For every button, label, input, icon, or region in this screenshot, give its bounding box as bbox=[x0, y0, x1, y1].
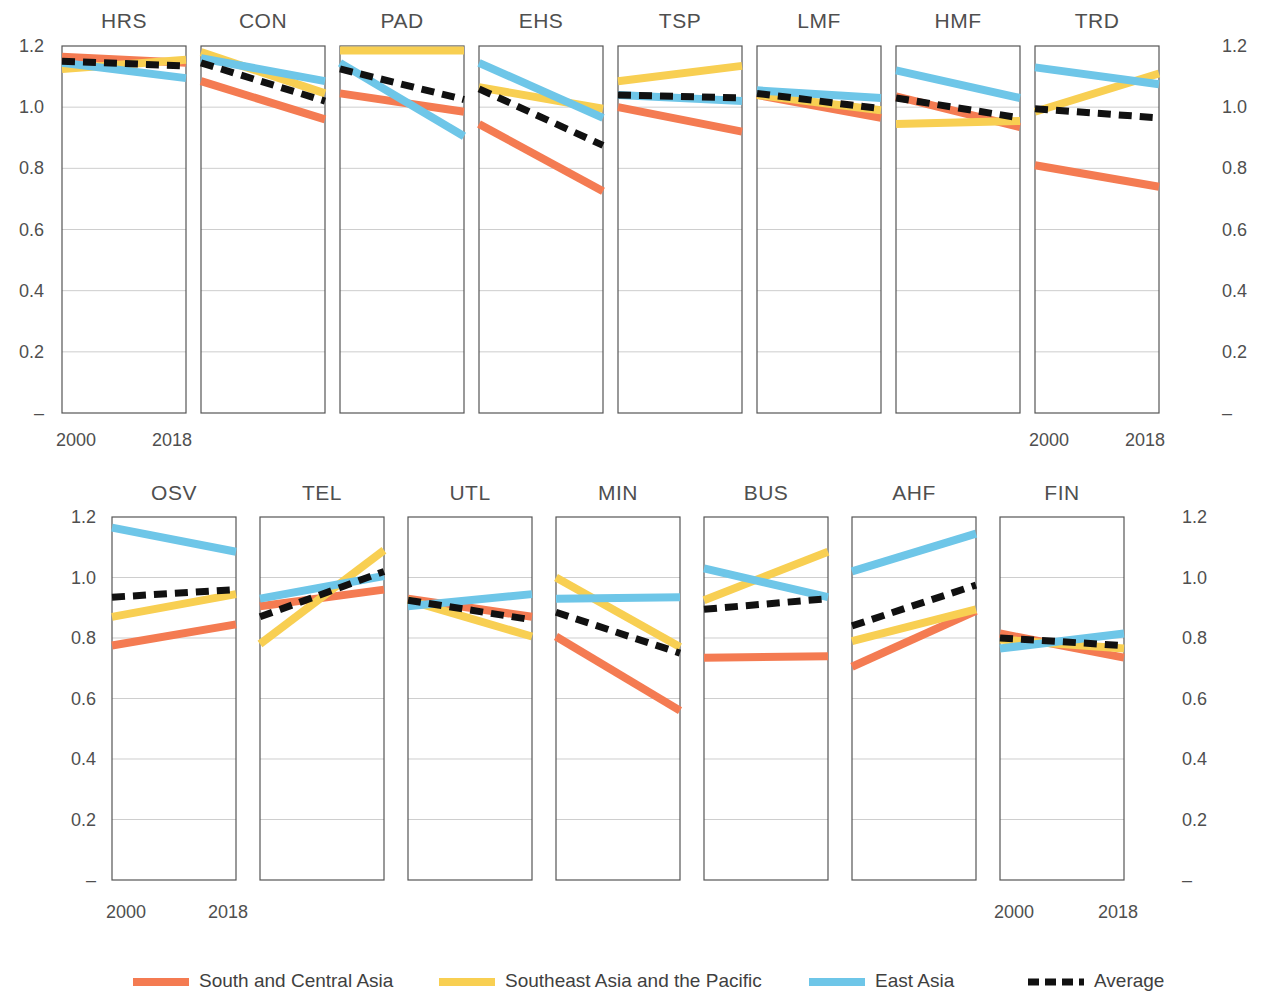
panel-min: MIN bbox=[556, 481, 680, 880]
x-axis-year-end-left: 2018 bbox=[152, 430, 192, 450]
y-axis-tick-label: 0.8 bbox=[71, 628, 96, 648]
panel-title: TEL bbox=[302, 481, 342, 504]
y-axis-tick-label: 1.0 bbox=[19, 97, 44, 117]
panel-title: UTL bbox=[449, 481, 490, 504]
panel-trd: TRD bbox=[1035, 9, 1159, 413]
panel-lmf: LMF bbox=[757, 9, 881, 413]
series-line-east-asia bbox=[896, 70, 1020, 98]
y-axis-tick-label: 1.2 bbox=[71, 507, 96, 527]
x-axis-year-start-right: 2000 bbox=[994, 902, 1034, 922]
y-axis-tick-label: 0.8 bbox=[1222, 158, 1247, 178]
series-line-southeast-asia-and-the-pacific bbox=[556, 578, 680, 648]
y-axis-tick-label: 1.0 bbox=[1222, 97, 1247, 117]
panel-hmf: HMF bbox=[896, 9, 1020, 413]
panel-utl: UTL bbox=[408, 481, 532, 880]
legend-label: Average bbox=[1094, 970, 1164, 991]
panel-title: FIN bbox=[1044, 481, 1079, 504]
panel-osv: OSV bbox=[112, 481, 236, 880]
panel-fin: FIN bbox=[1000, 481, 1124, 880]
series-line-southeast-asia-and-the-pacific bbox=[112, 594, 236, 617]
series-line-east-asia bbox=[556, 597, 680, 599]
row-1-left-axis: –0.20.40.60.81.01.2 bbox=[19, 36, 44, 423]
chart-stage: HRSCONPADEHSTSPLMFHMFTRD OSVTELUTLMINBUS… bbox=[0, 0, 1266, 998]
series-line-east-asia bbox=[112, 528, 236, 552]
panel-title: LMF bbox=[797, 9, 841, 32]
series-line-south-and-central-asia bbox=[112, 624, 236, 645]
x-axis-year-end-right: 2018 bbox=[1125, 430, 1165, 450]
series-line-east-asia bbox=[201, 58, 325, 81]
x-axis-year-start-left: 2000 bbox=[56, 430, 96, 450]
y-axis-tick-label: – bbox=[1222, 403, 1232, 423]
series-line-south-and-central-asia bbox=[704, 656, 828, 658]
y-axis-tick-label: 0.2 bbox=[71, 810, 96, 830]
row-2-left-axis: –0.20.40.60.81.01.2 bbox=[71, 507, 96, 890]
y-axis-tick-label: 1.2 bbox=[1222, 36, 1247, 56]
series-line-southeast-asia-and-the-pacific bbox=[618, 66, 742, 81]
legend-label: East Asia bbox=[875, 970, 955, 991]
y-axis-tick-label: 0.6 bbox=[1182, 689, 1207, 709]
y-axis-tick-label: 0.4 bbox=[71, 749, 96, 769]
legend: South and Central AsiaSoutheast Asia and… bbox=[133, 970, 1164, 991]
panel-bus: BUS bbox=[704, 481, 828, 880]
x-axis-year-start-right: 2000 bbox=[1029, 430, 1069, 450]
panel-title: CON bbox=[239, 9, 287, 32]
series-line-southeast-asia-and-the-pacific bbox=[896, 121, 1020, 124]
y-axis-tick-label: 0.4 bbox=[1222, 281, 1247, 301]
legend-label: South and Central Asia bbox=[199, 970, 394, 991]
y-axis-tick-label: 0.2 bbox=[19, 342, 44, 362]
panel-title: EHS bbox=[519, 9, 564, 32]
legend-item-average[interactable]: Average bbox=[1028, 970, 1164, 991]
y-axis-tick-label: 1.0 bbox=[71, 568, 96, 588]
y-axis-tick-label: 0.6 bbox=[71, 689, 96, 709]
panel-title: AHF bbox=[892, 481, 936, 504]
panel-title: PAD bbox=[380, 9, 423, 32]
panel-title: OSV bbox=[151, 481, 197, 504]
y-axis-tick-label: 0.6 bbox=[1222, 220, 1247, 240]
legend-label: Southeast Asia and the Pacific bbox=[505, 970, 762, 991]
panel-ehs: EHS bbox=[479, 9, 603, 413]
y-axis-tick-label: 1.0 bbox=[1182, 568, 1207, 588]
series-line-average bbox=[704, 599, 828, 610]
x-axis-year-start-left: 2000 bbox=[106, 902, 146, 922]
y-axis-tick-label: 0.2 bbox=[1222, 342, 1247, 362]
row-1-year-labels: 2000201820002018 bbox=[56, 430, 1165, 450]
y-axis-tick-label: 1.2 bbox=[1182, 507, 1207, 527]
y-axis-tick-label: 1.2 bbox=[19, 36, 44, 56]
row-2-right-axis: –0.20.40.60.81.01.2 bbox=[1182, 507, 1207, 890]
x-axis-year-end-left: 2018 bbox=[208, 902, 248, 922]
legend-item-south-and-central-asia[interactable]: South and Central Asia bbox=[133, 970, 394, 991]
panel-title: TSP bbox=[659, 9, 701, 32]
y-axis-tick-label: 0.4 bbox=[1182, 749, 1207, 769]
row-1-right-axis: –0.20.40.60.81.01.2 bbox=[1222, 36, 1247, 423]
y-axis-tick-label: 0.2 bbox=[1182, 810, 1207, 830]
row-1-panel-group: HRSCONPADEHSTSPLMFHMFTRD bbox=[62, 9, 1159, 413]
y-axis-tick-label: 0.6 bbox=[19, 220, 44, 240]
legend-item-east-asia[interactable]: East Asia bbox=[809, 970, 955, 991]
y-axis-tick-label: 0.8 bbox=[1182, 628, 1207, 648]
panel-tel: TEL bbox=[260, 481, 384, 880]
y-axis-tick-label: 0.8 bbox=[19, 158, 44, 178]
panel-title: HMF bbox=[935, 9, 982, 32]
panel-ahf: AHF bbox=[852, 481, 976, 880]
series-line-east-asia bbox=[852, 534, 976, 572]
panel-title: MIN bbox=[598, 481, 638, 504]
panel-title: TRD bbox=[1075, 9, 1120, 32]
series-line-south-and-central-asia bbox=[618, 107, 742, 131]
y-axis-tick-label: – bbox=[86, 870, 96, 890]
panel-pad: PAD bbox=[340, 9, 464, 413]
small-multiples-line-chart: HRSCONPADEHSTSPLMFHMFTRD OSVTELUTLMINBUS… bbox=[0, 0, 1266, 998]
panel-title: BUS bbox=[744, 481, 789, 504]
row-2-panel-group: OSVTELUTLMINBUSAHFFIN bbox=[112, 481, 1124, 880]
y-axis-tick-label: – bbox=[34, 403, 44, 423]
y-axis-tick-label: – bbox=[1182, 870, 1192, 890]
x-axis-year-end-right: 2018 bbox=[1098, 902, 1138, 922]
legend-item-southeast-asia-and-the-pacific[interactable]: Southeast Asia and the Pacific bbox=[439, 970, 762, 991]
panel-con: CON bbox=[201, 9, 325, 413]
panel-title: HRS bbox=[101, 9, 147, 32]
row-2-year-labels: 2000201820002018 bbox=[106, 902, 1138, 922]
panel-tsp: TSP bbox=[618, 9, 742, 413]
y-axis-tick-label: 0.4 bbox=[19, 281, 44, 301]
panel-hrs: HRS bbox=[62, 9, 186, 413]
